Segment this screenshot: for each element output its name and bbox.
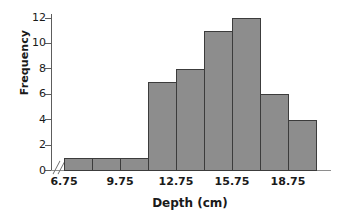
histogram-bar: [92, 158, 121, 171]
histogram-bar: [64, 158, 93, 171]
histogram-figure: Frequency 024681012 6.759.7512.7515.7518…: [0, 0, 348, 217]
histogram-bar: [260, 94, 289, 171]
histogram-bar: [288, 120, 317, 171]
histogram-bar: [176, 69, 205, 171]
histogram-bar: [148, 82, 177, 171]
histogram-bar: [204, 31, 233, 171]
histogram-bar: [232, 18, 261, 171]
histogram-bar: [120, 158, 149, 171]
x-axis-title: Depth (cm): [64, 196, 316, 210]
histogram-bars: [0, 0, 348, 217]
